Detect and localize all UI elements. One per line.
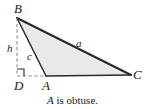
side-label-c: c bbox=[27, 51, 32, 62]
vertex-label-D: D bbox=[14, 79, 23, 92]
figure-caption: A is obtuse. bbox=[0, 94, 145, 106]
altitude-label-h: h bbox=[7, 43, 13, 54]
vertex-label-B: B bbox=[14, 2, 22, 15]
geometry-figure: B A C D a c h A is obtuse. bbox=[0, 0, 145, 109]
caption-text: is obtuse. bbox=[56, 94, 98, 106]
vertex-label-A: A bbox=[42, 79, 50, 92]
side-b-segment-AC bbox=[46, 75, 131, 76]
caption-variable: A bbox=[47, 94, 54, 106]
vertex-label-C: C bbox=[133, 68, 142, 81]
side-label-a: a bbox=[76, 38, 82, 49]
right-angle-marker-icon bbox=[17, 69, 24, 76]
